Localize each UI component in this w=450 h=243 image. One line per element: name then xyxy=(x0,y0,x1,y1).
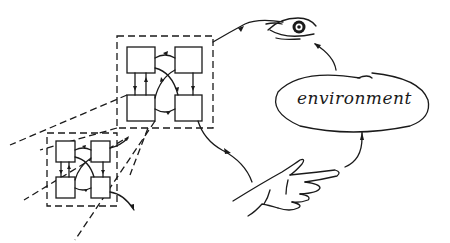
diagram-canvas: environment xyxy=(0,0,450,243)
arrow-hand-to-environment xyxy=(345,132,362,167)
zoom-unit-top-left xyxy=(56,141,75,162)
unit-bottom-left xyxy=(127,95,155,121)
pointing-hand-icon xyxy=(233,160,339,217)
unit-top-left xyxy=(127,47,155,73)
environment-label: environment xyxy=(297,88,412,108)
unit-top-right xyxy=(175,47,202,73)
zoom-unit-bottom-left xyxy=(56,177,75,198)
network-box xyxy=(117,36,213,128)
zoom-unit-top-right xyxy=(91,141,110,162)
zoom-unit-bottom-right xyxy=(91,177,110,198)
unit-bottom-right xyxy=(175,95,202,121)
